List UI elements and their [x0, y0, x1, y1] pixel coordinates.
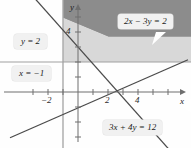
x-tick-label-4: 4 — [135, 96, 140, 105]
graph-figure: −2 2 4 4 x y 2x − 3y = 2 3x + 4y = 12 y … — [0, 0, 191, 148]
label-y-equals-2: y = 2 — [14, 34, 47, 49]
y-tick-label-4: 4 — [66, 27, 71, 36]
label-3x-plus-4y-equals-12: 3x + 4y = 12 — [103, 120, 162, 135]
x-axis-arrow — [180, 89, 186, 95]
y-axis-label: y — [70, 3, 74, 12]
x-axis-label: x — [180, 97, 184, 106]
label-2x-minus-3y-equals-2: 2x − 3y = 2 — [118, 14, 173, 29]
x-tick-label-2: 2 — [105, 96, 110, 105]
x-tick-label-minus-2: −2 — [41, 96, 52, 105]
label-x-equals-minus-1: x = −1 — [12, 66, 51, 81]
